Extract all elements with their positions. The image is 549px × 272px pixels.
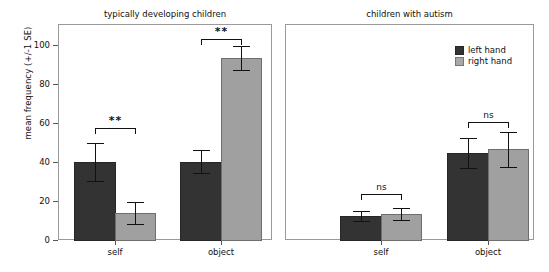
significance-bracket-right-self xyxy=(361,194,402,200)
significance-bracket-right-object xyxy=(468,122,509,128)
x-tick-mark-left-object xyxy=(221,241,222,245)
errorbar-cap-lower-left-object-righthand xyxy=(233,70,250,71)
errorbar-cap-upper-left-self-lefthand xyxy=(87,143,104,144)
y-tick-label-20: 20 xyxy=(24,196,50,206)
legend-swatch-left-hand xyxy=(455,46,464,55)
y-tick-mark-0 xyxy=(53,240,58,241)
legend-label-right-hand: right hand xyxy=(468,56,512,66)
x-tick-mark-right-self xyxy=(381,241,382,245)
errorbar-right-self-lefthand xyxy=(361,211,362,221)
errorbar-cap-upper-right-self-lefthand xyxy=(353,211,370,212)
x-tick-mark-right-object xyxy=(488,241,489,245)
errorbar-right-self-righthand xyxy=(401,208,402,220)
errorbar-cap-upper-right-object-lefthand xyxy=(460,138,477,139)
y-tick-label-100: 100 xyxy=(24,40,50,50)
errorbar-cap-upper-right-self-righthand xyxy=(393,208,410,209)
errorbar-right-object-righthand xyxy=(508,132,509,167)
errorbar-cap-upper-left-self-righthand xyxy=(127,202,144,203)
x-tick-mark-left-self xyxy=(115,241,116,245)
y-tick-label-60: 60 xyxy=(24,118,50,128)
errorbar-cap-lower-right-object-lefthand xyxy=(460,168,477,169)
errorbar-right-object-lefthand xyxy=(468,138,469,168)
x-tick-label-right-object: object xyxy=(463,247,513,257)
figure-canvas: mean frequency (+/-1 SE) 100 80 60 40 20… xyxy=(0,0,549,272)
x-tick-label-right-self: self xyxy=(356,247,406,257)
errorbar-cap-lower-left-self-lefthand xyxy=(87,181,104,182)
significance-label-right-self: ns xyxy=(361,182,402,192)
significance-bracket-left-object xyxy=(201,39,242,45)
errorbar-cap-upper-left-object-righthand xyxy=(233,46,250,47)
significance-label-right-object: ns xyxy=(468,110,509,120)
significance-label-left-self: ** xyxy=(95,114,136,127)
errorbar-cap-upper-left-object-lefthand xyxy=(193,150,210,151)
panel-title-children-with-autism: children with autism xyxy=(285,9,534,19)
errorbar-left-object-righthand xyxy=(241,46,242,70)
x-tick-label-left-object: object xyxy=(196,247,246,257)
bar-left-object-righthand[interactable] xyxy=(221,58,262,241)
errorbar-cap-lower-left-self-righthand xyxy=(127,224,144,225)
errorbar-cap-lower-right-object-righthand xyxy=(500,167,517,168)
errorbar-cap-lower-right-self-righthand xyxy=(393,220,410,221)
significance-bracket-left-self xyxy=(95,128,136,134)
legend-swatch-right-hand xyxy=(455,57,464,66)
errorbar-left-object-lefthand xyxy=(201,150,202,173)
x-tick-label-left-self: self xyxy=(90,247,140,257)
y-tick-label-40: 40 xyxy=(24,157,50,167)
errorbar-cap-upper-right-object-righthand xyxy=(500,132,517,133)
y-tick-label-0: 0 xyxy=(24,235,50,245)
legend-label-left-hand: left hand xyxy=(468,45,506,55)
panel-title-typically-developing: typically developing children xyxy=(58,9,272,19)
errorbar-cap-lower-right-self-lefthand xyxy=(353,221,370,222)
errorbar-left-self-righthand xyxy=(135,202,136,224)
significance-label-left-object: ** xyxy=(201,25,242,38)
y-tick-label-80: 80 xyxy=(24,79,50,89)
errorbar-left-self-lefthand xyxy=(95,143,96,181)
errorbar-cap-lower-left-object-lefthand xyxy=(193,173,210,174)
